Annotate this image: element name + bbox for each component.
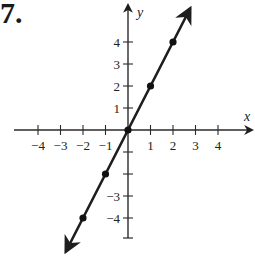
x-tick-label: −1 xyxy=(99,138,113,153)
x-tick-label: 4 xyxy=(215,138,222,153)
y-tick-label: 2 xyxy=(114,79,121,94)
y-tick-label: −4 xyxy=(106,211,120,226)
y-tick-label: 1 xyxy=(114,101,121,116)
x-tick-label: −2 xyxy=(76,138,90,153)
y-tick-label: 4 xyxy=(114,35,121,50)
graph-plot: xy−4−3−2−112344321−3−4 xyxy=(0,0,255,262)
x-tick-label: 2 xyxy=(170,138,177,153)
x-tick-label: −4 xyxy=(31,138,45,153)
x-tick-label: 3 xyxy=(192,138,199,153)
x-axis-label: x xyxy=(243,109,251,124)
data-point xyxy=(147,82,154,89)
x-tick-label: 1 xyxy=(147,138,154,153)
tick-labels: xy−4−3−2−112344321−3−4 xyxy=(31,5,251,226)
x-tick-label: −3 xyxy=(54,138,68,153)
data-point xyxy=(124,126,131,133)
data-point xyxy=(102,170,109,177)
y-axis-label: y xyxy=(135,5,144,20)
data-point xyxy=(169,38,176,45)
data-point xyxy=(79,214,86,221)
y-tick-label: 3 xyxy=(114,57,121,72)
y-tick-label: −3 xyxy=(106,189,120,204)
